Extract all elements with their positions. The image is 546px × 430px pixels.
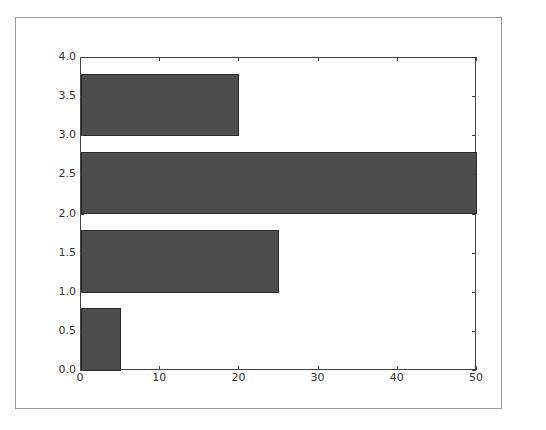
ytick-mark [472, 214, 476, 215]
xtick-mark [318, 366, 319, 370]
xtick-mark [159, 57, 160, 61]
xtick-label: 40 [382, 371, 412, 384]
ytick-mark [472, 331, 476, 332]
ytick-mark [80, 174, 84, 175]
ytick-label: 3.5 [46, 89, 76, 102]
xtick-mark [80, 366, 81, 370]
ytick-mark [80, 253, 84, 254]
xtick-mark [80, 57, 81, 61]
bar-3 [81, 74, 239, 137]
ytick-mark [80, 331, 84, 332]
ytick-mark [472, 96, 476, 97]
bar-0 [81, 308, 121, 371]
ytick-mark [80, 214, 84, 215]
ytick-mark [80, 292, 84, 293]
xtick-label: 20 [223, 371, 253, 384]
ytick-mark [472, 174, 476, 175]
ytick-label: 4.0 [46, 50, 76, 63]
bar-2 [81, 152, 477, 215]
ytick-label: 2.0 [46, 207, 76, 220]
bar-1 [81, 230, 279, 293]
xtick-label: 50 [461, 371, 491, 384]
xtick-label: 30 [303, 371, 333, 384]
xtick-mark [397, 366, 398, 370]
xtick-mark [318, 57, 319, 61]
xtick-label: 0 [65, 371, 95, 384]
ytick-mark [472, 292, 476, 293]
ytick-label: 0.5 [46, 324, 76, 337]
ytick-label: 2.5 [46, 167, 76, 180]
ytick-label: 3.0 [46, 128, 76, 141]
ytick-mark [472, 253, 476, 254]
xtick-mark [159, 366, 160, 370]
ytick-label: 1.5 [46, 246, 76, 259]
xtick-label: 10 [144, 371, 174, 384]
xtick-mark [238, 366, 239, 370]
xtick-mark [238, 57, 239, 61]
plot-area [80, 57, 476, 370]
xtick-mark [476, 57, 477, 61]
ytick-mark [80, 135, 84, 136]
ytick-label: 1.0 [46, 285, 76, 298]
ytick-mark [472, 135, 476, 136]
ytick-mark [80, 96, 84, 97]
xtick-mark [397, 57, 398, 61]
xtick-mark [476, 366, 477, 370]
